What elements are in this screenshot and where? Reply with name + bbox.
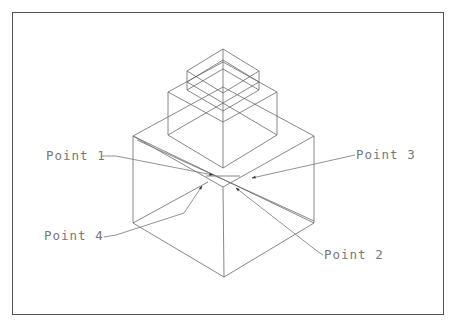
medium-box <box>168 62 277 168</box>
label-point-2: Point 2 <box>324 249 384 262</box>
label-point-3: Point 3 <box>356 149 416 162</box>
leader-point-3 <box>252 155 355 178</box>
leaders <box>102 155 355 255</box>
leader-point-2 <box>236 188 323 255</box>
large-box <box>133 87 314 277</box>
label-point-4: Point 4 <box>44 230 104 243</box>
label-point-1: Point 1 <box>46 150 106 163</box>
small-cube <box>187 49 259 122</box>
